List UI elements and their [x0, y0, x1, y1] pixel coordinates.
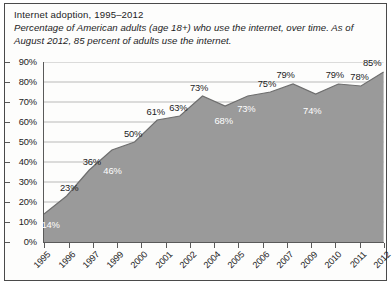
- y-tick-label: 50%: [7, 138, 37, 147]
- x-tick-label: 2000: [126, 250, 150, 274]
- data-point-label: 79%: [276, 70, 294, 79]
- x-tick-mark: [238, 243, 239, 248]
- x-tick-label: 2004: [199, 250, 223, 274]
- x-tick-label: 1997: [78, 250, 102, 274]
- y-tick-mark: [5, 162, 10, 163]
- y-tick-mark: [5, 102, 10, 103]
- x-tick-mark: [93, 243, 94, 248]
- y-tick-label: 10%: [7, 218, 37, 227]
- area-series: [44, 62, 384, 242]
- x-tick-mark: [214, 243, 215, 248]
- data-point-label: 23%: [60, 183, 78, 192]
- data-point-label: 79%: [326, 70, 344, 79]
- x-tick-label: 1995: [29, 250, 53, 274]
- y-tick-label: 70%: [7, 98, 37, 107]
- x-tick-label: 2006: [248, 250, 272, 274]
- y-tick-mark: [5, 142, 10, 143]
- x-tick-mark: [69, 243, 70, 248]
- data-point-label: 85%: [363, 58, 381, 67]
- data-point-label: 63%: [169, 103, 187, 112]
- x-axis: 1995199619971999200020012002200420052006…: [39, 243, 389, 285]
- y-tick-mark: [5, 202, 10, 203]
- plot-area: 14%23%36%46%50%61%63%73%68%73%75%79%74%7…: [39, 58, 384, 243]
- y-tick-label: 90%: [7, 58, 37, 67]
- x-tick-mark: [360, 243, 361, 248]
- x-tick-label: 2005: [223, 250, 247, 274]
- x-tick-mark: [44, 243, 45, 248]
- x-tick-mark: [141, 243, 142, 248]
- data-point-label: 73%: [237, 104, 255, 113]
- x-tick-label: 2011: [345, 250, 369, 274]
- x-tick-mark: [335, 243, 336, 248]
- y-tick-mark: [5, 62, 10, 63]
- x-tick-label: 2009: [296, 250, 320, 274]
- y-tick-label: 40%: [7, 158, 37, 167]
- x-tick-mark: [287, 243, 288, 248]
- data-point-label: 78%: [350, 72, 368, 81]
- y-tick-mark: [5, 182, 10, 183]
- data-point-label: 75%: [258, 79, 276, 88]
- x-tick-label: 1999: [102, 250, 126, 274]
- y-tick-label: 80%: [7, 78, 37, 87]
- data-point-label: 14%: [41, 220, 59, 229]
- x-tick-mark: [166, 243, 167, 248]
- chart-title: Internet adoption, 1995–2012: [14, 8, 380, 21]
- y-axis: 0%10%20%30%40%50%60%70%80%90%: [0, 58, 37, 243]
- x-tick-mark: [190, 243, 191, 248]
- x-tick-label: 2001: [151, 250, 175, 274]
- x-tick-label: 2007: [272, 250, 296, 274]
- y-tick-label: 60%: [7, 118, 37, 127]
- data-point-label: 36%: [83, 157, 101, 166]
- y-tick-label: 0%: [7, 238, 37, 247]
- y-tick-mark: [5, 242, 10, 243]
- y-tick-mark: [5, 122, 10, 123]
- data-point-label: 74%: [303, 106, 321, 115]
- data-point-label: 61%: [147, 107, 165, 116]
- figure-container: Internet adoption, 1995–2012 Percentage …: [4, 3, 387, 281]
- y-tick-label: 20%: [7, 198, 37, 207]
- y-tick-mark: [5, 222, 10, 223]
- x-tick-label: 2012: [369, 250, 392, 274]
- data-point-label: 46%: [103, 166, 121, 175]
- data-point-label: 68%: [215, 116, 233, 125]
- chart-caption: Internet adoption, 1995–2012 Percentage …: [14, 8, 380, 47]
- x-tick-mark: [117, 243, 118, 248]
- y-tick-mark: [5, 82, 10, 83]
- data-point-label: 50%: [124, 129, 142, 138]
- x-tick-mark: [263, 243, 264, 248]
- x-tick-mark: [384, 243, 385, 248]
- x-tick-mark: [311, 243, 312, 248]
- data-point-label: 73%: [190, 83, 208, 92]
- x-tick-label: 2002: [175, 250, 199, 274]
- x-tick-label: 1996: [54, 250, 78, 274]
- x-tick-label: 2010: [321, 250, 345, 274]
- y-tick-label: 30%: [7, 178, 37, 187]
- chart-subtitle: Percentage of American adults (age 18+) …: [14, 22, 380, 47]
